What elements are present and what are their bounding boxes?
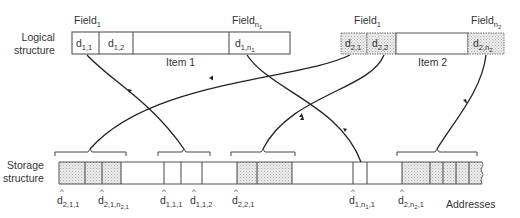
address-d-1-n1-1: d1,n1,1 <box>349 195 375 210</box>
address-d-2-1-n21: d2,1,n2,1 <box>98 195 129 210</box>
address-d-1-1-1: d1,1,1 <box>160 195 183 209</box>
logical-label-line2: structure <box>14 44 55 57</box>
mapping-curves <box>87 55 486 162</box>
cell-d-2-1: d2,1 <box>345 38 361 52</box>
address-d-2-2-1: d2,2,1 <box>232 195 255 209</box>
storage-bar <box>59 162 483 184</box>
storage-label-line1: Storage <box>3 159 44 172</box>
diagram-canvas <box>0 0 520 218</box>
cell-d-1-n1: d1,n1 <box>235 38 255 53</box>
item1-label: Item 1 <box>166 57 195 68</box>
cell-d-2-2: d2,2 <box>372 38 388 52</box>
cell-d-1-1: d1,1 <box>76 38 92 52</box>
item1-field-last: Fieldn1 <box>232 15 262 30</box>
storage-structure-label: Storage structure <box>3 159 44 184</box>
cell-d-1-2: d1,2 <box>108 38 124 52</box>
arrowheads <box>128 76 467 133</box>
storage-label-line2: structure <box>3 172 44 185</box>
item1-field-first: Field1 <box>74 15 101 29</box>
item2-label: Item 2 <box>418 57 447 68</box>
item2-field-first: Field1 <box>354 15 381 29</box>
logical-label-line1: Logical <box>14 31 55 44</box>
logical-structure-label: Logical structure <box>14 31 55 56</box>
address-d-2-n2-1: d2,n2,1 <box>398 195 424 210</box>
item1-record <box>72 32 290 54</box>
storage-braces <box>55 149 126 156</box>
item2-field-last: Fieldn2 <box>471 15 501 30</box>
address-d-2-1-1: d2,1,1 <box>57 195 80 209</box>
cell-d-2-n2: d2,n2 <box>473 38 493 53</box>
address-d-1-1-2: d1,1,2 <box>190 195 213 209</box>
addresses-label: Addresses <box>446 199 496 210</box>
